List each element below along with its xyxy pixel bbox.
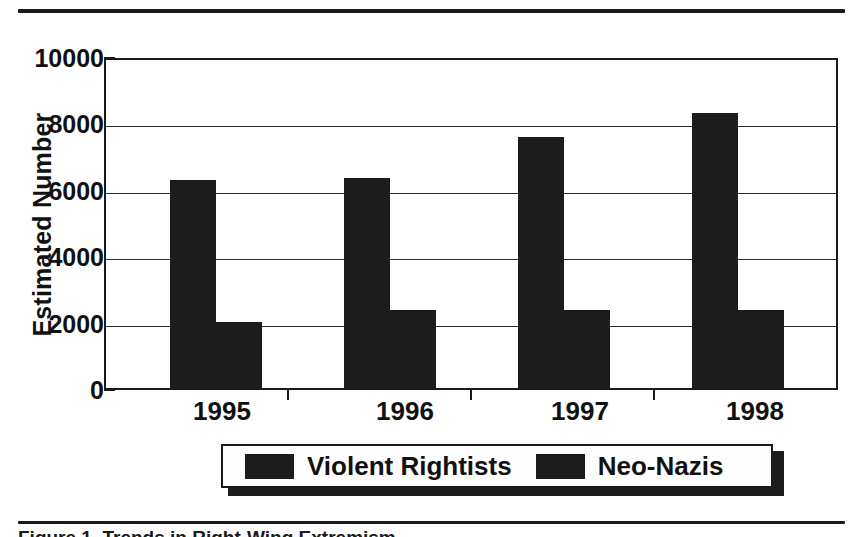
- y-tick-label-6000: 6000: [12, 177, 104, 206]
- bar-1998-neo-nazis: [738, 310, 784, 388]
- plot-area: [104, 58, 838, 390]
- legend-item-violent-rightists: Violent Rightists: [245, 451, 512, 482]
- x-tick-label-1995: 1995: [193, 396, 251, 427]
- legend-item-neo-nazis: Neo-Nazis: [536, 451, 724, 482]
- figure-page: Estimated Number 10000 8000 6000 4000 20…: [0, 0, 857, 537]
- bar-1996-violent-rightists: [344, 178, 390, 388]
- bar-1998-violent-rightists: [692, 113, 738, 388]
- chart-legend: Violent Rightists Neo-Nazis: [221, 444, 773, 488]
- bar-1995-violent-rightists: [170, 180, 216, 388]
- y-tick-label-10000: 10000: [12, 44, 104, 73]
- legend-swatch-icon-violent-rightists: [245, 454, 294, 479]
- x-category-tick-2: [470, 390, 472, 400]
- y-tick-label-4000: 4000: [12, 243, 104, 272]
- x-tick-label-1998: 1998: [726, 396, 784, 427]
- bar-1997-violent-rightists: [518, 137, 564, 388]
- bar-1996-neo-nazis: [390, 310, 436, 388]
- x-tick-label-1996: 1996: [376, 396, 434, 427]
- y-tick-label-8000: 8000: [12, 110, 104, 139]
- y-axis-tick-labels: 10000 8000 6000 4000 2000 0: [0, 0, 104, 537]
- figure-caption: Figure 1. Trends in Right-Wing Extremism: [18, 527, 396, 537]
- x-tick-label-1997: 1997: [551, 396, 609, 427]
- x-category-tick-3: [653, 390, 655, 400]
- legend-label-neo-nazis: Neo-Nazis: [598, 451, 724, 482]
- legend-swatch-icon-neo-nazis: [536, 454, 585, 479]
- legend-label-violent-rightists: Violent Rightists: [307, 451, 512, 482]
- y-tick-label-2000: 2000: [12, 310, 104, 339]
- bar-1995-neo-nazis: [216, 322, 262, 388]
- x-category-tick-1: [287, 390, 289, 400]
- y-tick-label-0: 0: [12, 376, 104, 405]
- bar-1997-neo-nazis: [564, 310, 610, 388]
- bar-chart-figure: Estimated Number 10000 8000 6000 4000 20…: [0, 0, 857, 537]
- page-rule-bottom: [18, 521, 845, 524]
